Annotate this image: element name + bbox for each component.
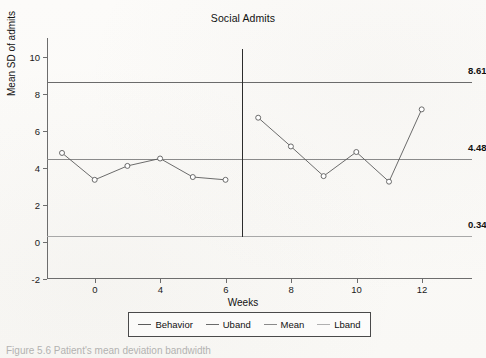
y-tick-label: 4 — [35, 162, 40, 173]
plot-area: -20246810 04681012 8.614.480.34 — [47, 38, 472, 279]
data-point-marker — [125, 163, 130, 168]
chart-title: Social Admits — [0, 12, 486, 24]
x-tick-label: 4 — [158, 284, 163, 295]
data-point-marker — [60, 150, 65, 155]
legend-line-icon — [264, 324, 277, 325]
data-point-marker — [321, 174, 326, 179]
data-point-marker — [256, 115, 261, 120]
behavior-line — [62, 153, 226, 180]
y-tick-label: 0 — [35, 236, 40, 247]
legend-item-behavior: Behavior — [138, 319, 193, 330]
y-tick-label: 2 — [35, 199, 40, 210]
legend-label: Lband — [334, 319, 360, 330]
legend-label: Mean — [281, 319, 305, 330]
chart-page: Social Admits -20246810 04681012 8.614.4… — [0, 0, 486, 358]
figure-caption: Figure 5.6 Patient's mean deviation band… — [6, 345, 211, 356]
legend-label: Uband — [223, 319, 251, 330]
y-tick-label: 10 — [29, 51, 40, 62]
y-axis-title: Mean SD of admits — [6, 11, 17, 96]
legend-item-lband: Lband — [317, 319, 360, 330]
x-tick-mark — [226, 279, 227, 283]
x-tick-label: 10 — [351, 284, 362, 295]
x-axis-title: Weeks — [0, 297, 486, 308]
x-tick-mark — [357, 279, 358, 283]
data-point-marker — [354, 150, 359, 155]
legend-label: Behavior — [155, 319, 193, 330]
y-tick-mark — [43, 279, 47, 280]
data-point-marker — [419, 107, 424, 112]
data-point-marker — [387, 179, 392, 184]
y-tick-label: -2 — [32, 274, 40, 285]
legend-line-icon — [138, 324, 151, 325]
behavior-line — [258, 109, 422, 181]
data-point-marker — [92, 177, 97, 182]
data-point-marker — [288, 144, 293, 149]
y-tick-label: 6 — [35, 125, 40, 136]
behavior-series — [47, 38, 472, 279]
x-tick-mark — [95, 279, 96, 283]
legend-item-mean: Mean — [264, 319, 305, 330]
data-point-marker — [223, 177, 228, 182]
x-tick-label: 12 — [417, 284, 428, 295]
x-tick-label: 6 — [223, 284, 228, 295]
legend-line-icon — [317, 324, 330, 325]
legend-item-uband: Uband — [206, 319, 251, 330]
x-tick-mark — [160, 279, 161, 283]
x-tick-mark — [291, 279, 292, 283]
data-point-marker — [190, 175, 195, 180]
chart-legend: BehaviorUbandMeanLband — [128, 312, 371, 337]
legend-line-icon — [206, 324, 219, 325]
x-tick-label: 0 — [92, 284, 97, 295]
data-point-marker — [158, 156, 163, 161]
y-tick-label: 8 — [35, 88, 40, 99]
x-tick-label: 8 — [289, 284, 294, 295]
x-tick-mark — [422, 279, 423, 283]
